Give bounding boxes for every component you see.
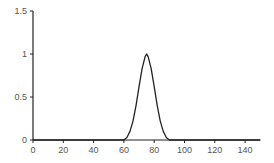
x-axis: 020406080100120140 — [30, 140, 260, 155]
series-line-pulse — [33, 54, 260, 140]
y-axis: 00.511.5 — [14, 6, 33, 145]
x-tick-label: 100 — [177, 145, 192, 155]
y-tick-label: 1 — [22, 49, 27, 59]
x-tick-label: 60 — [119, 145, 129, 155]
x-tick-label: 40 — [89, 145, 99, 155]
line-chart: 00.511.5 020406080100120140 — [0, 0, 274, 163]
x-tick-label: 80 — [149, 145, 159, 155]
x-tick-label: 120 — [207, 145, 222, 155]
y-tick-label: 0 — [22, 135, 27, 145]
x-tick-label: 20 — [58, 145, 68, 155]
x-tick-label: 0 — [30, 145, 35, 155]
x-tick-label: 140 — [238, 145, 253, 155]
y-tick-label: 0.5 — [14, 92, 27, 102]
y-tick-label: 1.5 — [14, 6, 27, 16]
